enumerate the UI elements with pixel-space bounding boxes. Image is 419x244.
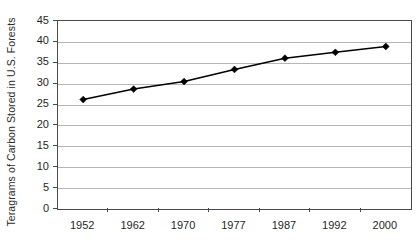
x-axis-tick-label: 1977: [208, 220, 258, 231]
x-axis-tick-label: 1952: [57, 220, 107, 231]
x-axis-tick-mark: [309, 208, 310, 212]
x-axis-ticks-layer: 1952196219701977198719922000: [0, 0, 419, 244]
x-axis-tick-label: 1992: [309, 220, 359, 231]
x-axis-tick-label: 1970: [158, 220, 208, 231]
line-chart: Teragrams of Carbon Stored in U.S. Fores…: [0, 0, 419, 244]
x-axis-tick-mark: [360, 208, 361, 212]
x-axis-tick-label: 1987: [259, 220, 309, 231]
x-axis-tick-mark: [107, 208, 108, 212]
x-axis-tick-label: 1962: [107, 220, 157, 231]
x-axis-tick-mark: [158, 208, 159, 212]
x-axis-tick-label: 2000: [360, 220, 410, 231]
x-axis-tick-mark: [208, 208, 209, 212]
x-axis-tick-mark: [259, 208, 260, 212]
